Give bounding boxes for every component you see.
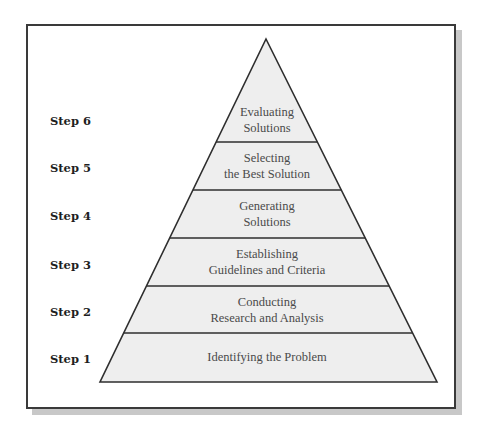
tier-4-line-1: Generating [157,198,377,214]
tier-5-line-1: Selecting [157,150,377,166]
step-label-6: Step 6 [50,114,91,128]
tier-3-line-1: Establishing [157,246,377,262]
tier-3-line-2: Guidelines and Criteria [157,262,377,278]
step-label-1: Step 1 [50,352,91,366]
tier-6-evaluating-solutions: Evaluating Solutions [157,104,377,136]
tier-2-line-2: Research and Analysis [157,310,377,326]
tier-6-line-1: Evaluating [157,104,377,120]
tier-1-line-1: Identifying the Problem [157,349,377,365]
step-label-5: Step 5 [50,161,91,175]
tier-1-identifying-problem: Identifying the Problem [157,349,377,365]
step-label-4: Step 4 [50,209,91,223]
tier-2-line-1: Conducting [157,294,377,310]
tier-5-selecting-best-solution: Selecting the Best Solution [157,150,377,182]
tier-3-establishing-guidelines: Establishing Guidelines and Criteria [157,246,377,278]
tier-4-line-2: Solutions [157,214,377,230]
step-label-2: Step 2 [50,305,91,319]
tier-6-line-2: Solutions [157,120,377,136]
tier-5-line-2: the Best Solution [157,166,377,182]
tier-4-generating-solutions: Generating Solutions [157,198,377,230]
tier-2-conducting-research: Conducting Research and Analysis [157,294,377,326]
step-label-3: Step 3 [50,258,91,272]
